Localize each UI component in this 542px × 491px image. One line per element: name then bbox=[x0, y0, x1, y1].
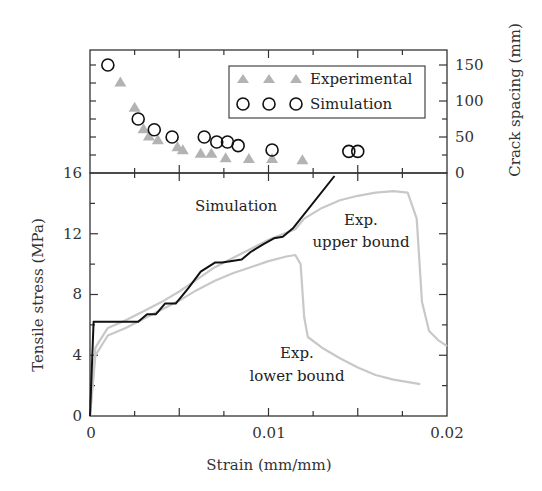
y-axis-title-left: Tensile stress (MPa) bbox=[29, 218, 47, 372]
legend-label-experimental: Experimental bbox=[310, 70, 413, 88]
tick-label: 12 bbox=[63, 225, 82, 243]
tick-label: 50 bbox=[455, 128, 474, 146]
crack-stress-chart: 0 4 8 12 16 0 50 100 150 0 0.01 0.02 Str… bbox=[0, 0, 542, 491]
annotation-exp-upper: Exp. bbox=[344, 211, 378, 229]
tick-label: 0.02 bbox=[430, 424, 463, 442]
tick-label: 16 bbox=[63, 164, 82, 182]
triangle-marker bbox=[205, 148, 217, 158]
circle-marker bbox=[132, 113, 144, 125]
x-tick-labels: 0 0.01 0.02 bbox=[86, 424, 463, 442]
y-axis-title-right: Crack spacing (mm) bbox=[506, 23, 524, 176]
triangle-marker bbox=[114, 77, 126, 87]
circle-marker bbox=[148, 124, 160, 136]
y-left-tick-labels: 0 4 8 12 16 bbox=[63, 164, 82, 425]
tick-label: 0 bbox=[455, 164, 465, 182]
circle-marker bbox=[232, 140, 244, 152]
y-right-tick-labels: 0 50 100 150 bbox=[455, 56, 484, 182]
tick-label: 8 bbox=[72, 285, 82, 303]
triangle-marker bbox=[220, 152, 232, 162]
circle-marker bbox=[198, 131, 210, 143]
circle-marker bbox=[166, 131, 178, 143]
series-line-exp-lower-bound bbox=[90, 255, 420, 416]
circle-marker bbox=[352, 145, 364, 157]
x-axis-title: Strain (mm/mm) bbox=[206, 456, 331, 474]
legend-label-simulation: Simulation bbox=[310, 95, 393, 113]
tick-label: 150 bbox=[455, 56, 484, 74]
legend: Experimental Simulation bbox=[229, 66, 425, 118]
triangle-marker bbox=[296, 154, 308, 164]
annotation-exp-upper: upper bound bbox=[312, 233, 410, 251]
annotation-exp-lower: lower bound bbox=[249, 367, 344, 385]
annotation-exp-lower: Exp. bbox=[280, 344, 314, 362]
tick-label: 4 bbox=[72, 346, 82, 364]
tick-label: 0.01 bbox=[252, 424, 285, 442]
tick-label: 0 bbox=[86, 424, 96, 442]
annotation-simulation: Simulation bbox=[195, 197, 278, 215]
tick-label: 100 bbox=[455, 92, 484, 110]
triangle-marker bbox=[195, 148, 207, 158]
tick-label: 0 bbox=[72, 407, 82, 425]
triangle-marker bbox=[243, 153, 255, 163]
circle-marker bbox=[102, 59, 114, 71]
triangle-marker bbox=[129, 102, 141, 112]
